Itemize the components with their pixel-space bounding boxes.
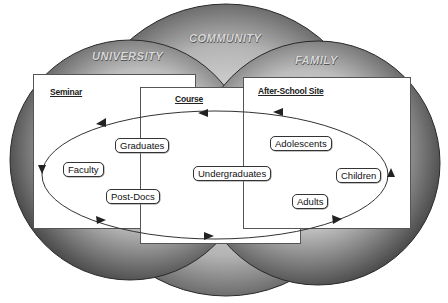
participant-post-docs: Post-Docs	[106, 189, 160, 204]
participant-adolescents: Adolescents	[270, 136, 332, 151]
participant-children: Children	[336, 168, 381, 183]
arrow-bottom-right-icon	[332, 215, 342, 224]
participant-faculty: Faculty	[63, 162, 104, 177]
arrow-left-icon	[38, 165, 46, 174]
participant-adults: Adults	[292, 194, 328, 209]
arrow-top-center-icon	[198, 109, 208, 117]
arrow-top-left-icon	[96, 118, 106, 127]
participant-graduates: Graduates	[115, 138, 169, 153]
participant-undergraduates: Undergraduates	[193, 166, 271, 181]
cycle-arrows	[0, 0, 448, 303]
